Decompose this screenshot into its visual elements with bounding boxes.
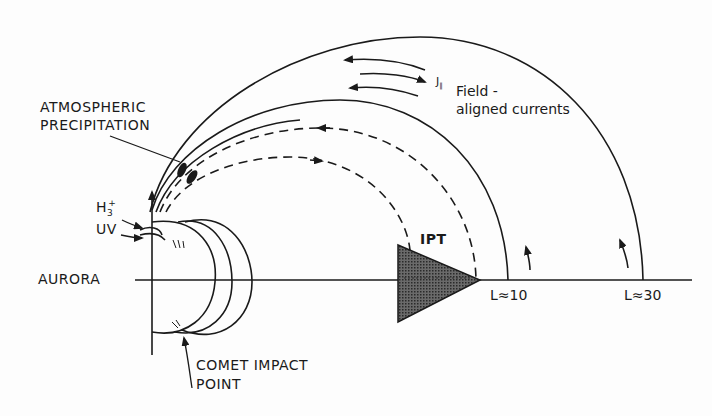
label-precipitation: PRECIPITATION: [40, 118, 150, 132]
label-h3-plus: H3+: [96, 200, 121, 214]
field-line-l30: [150, 37, 643, 280]
magnetosphere-diagram: ATMOSPHERIC PRECIPITATION H3+ UV AURORA …: [0, 0, 712, 416]
label-aligned-currents: aligned currents: [456, 102, 570, 116]
label-ipt: IPT: [420, 232, 447, 246]
label-l30: L≈30: [624, 288, 661, 302]
label-aurora: AURORA: [38, 272, 100, 286]
label-j-parallel: J∥: [436, 76, 443, 87]
field-line-l10: [152, 100, 508, 280]
label-field: Field -: [456, 84, 498, 98]
label-atmospheric: ATMOSPHERIC: [40, 100, 146, 114]
label-comet-impact: COMET IMPACT: [196, 358, 308, 372]
dashed-field-line-ipt: [166, 157, 410, 250]
label-uv: UV: [96, 222, 117, 236]
aurora-ring-outer: [182, 220, 252, 335]
label-l10: L≈10: [490, 288, 527, 302]
ipt-torus: [398, 245, 480, 322]
label-point: POINT: [196, 377, 241, 391]
